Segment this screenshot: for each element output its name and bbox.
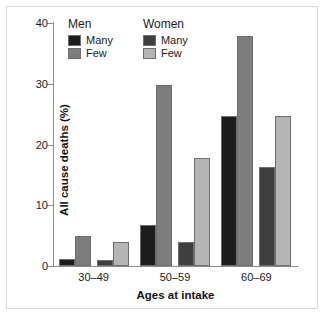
legend-group-women: WomenManyFew	[143, 18, 188, 61]
bar	[221, 116, 237, 266]
legend-item-label: Few	[86, 47, 107, 60]
legend-swatch-icon	[143, 35, 156, 46]
bar	[156, 85, 172, 266]
bar	[75, 236, 91, 266]
legend-item: Many	[68, 34, 113, 47]
y-tick-label: 40	[36, 18, 48, 29]
y-tick-label: 0	[42, 261, 48, 272]
bar	[237, 36, 253, 266]
bar	[140, 225, 156, 266]
legend-item-label: Many	[161, 34, 188, 47]
x-category-label: 60–69	[241, 271, 272, 283]
legend-swatch-icon	[143, 48, 156, 59]
x-category-label: 50–59	[160, 271, 191, 283]
y-tick-label: 30	[36, 78, 48, 89]
legend-group-men: MenManyFew	[68, 18, 113, 61]
bar	[97, 260, 113, 266]
y-axis-title: All cause deaths (%)	[58, 104, 70, 216]
legend-group-title: Men	[68, 18, 113, 32]
legend-item: Few	[68, 47, 113, 60]
legend-item-label: Few	[161, 47, 182, 60]
legend-item: Many	[143, 34, 188, 47]
bar	[113, 242, 129, 266]
legend-item: Few	[143, 47, 188, 60]
x-axis-line	[53, 266, 298, 267]
legend-swatch-icon	[68, 35, 81, 46]
bar	[259, 167, 275, 266]
figure: 010203040 30–4950–5960–69 All cause deat…	[0, 0, 324, 320]
legend: MenManyFewWomenManyFew	[68, 18, 188, 61]
y-tick-label: 10	[36, 200, 48, 211]
bar	[275, 116, 291, 266]
y-tick-label: 20	[36, 139, 48, 150]
bar	[59, 259, 75, 266]
x-axis-title: Ages at intake	[53, 289, 298, 301]
bar	[194, 158, 210, 266]
bar	[178, 242, 194, 266]
legend-item-label: Many	[86, 34, 113, 47]
x-category-label: 30–49	[78, 271, 109, 283]
legend-swatch-icon	[68, 48, 81, 59]
legend-group-title: Women	[143, 18, 188, 32]
